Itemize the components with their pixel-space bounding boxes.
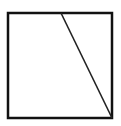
square-outline bbox=[8, 13, 112, 118]
diagram-canvas bbox=[0, 0, 121, 126]
diagonal-line bbox=[61, 13, 112, 118]
